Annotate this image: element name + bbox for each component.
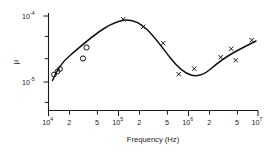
chart-figure: 10-4 10-5 104 2 5 105 2 5 106 2 5 107 Fr…: [0, 0, 269, 151]
data-point-cross: [192, 67, 196, 71]
data-point-cross: [250, 38, 254, 42]
x-tick-label-3: 105: [112, 116, 123, 126]
y-axis-title: μ: [10, 59, 20, 64]
data-point-circle: [80, 56, 85, 61]
data-curve: [53, 20, 257, 81]
data-point-cross: [161, 41, 165, 45]
x-tick-label-5: 5: [165, 118, 169, 127]
x-tick-label-9: 107: [252, 116, 263, 126]
y-axis-ticks: [44, 16, 49, 102]
x-tick-label-7: 2: [207, 118, 211, 127]
x-axis-title: Frequency (Hz): [127, 135, 180, 144]
y-tick-label-0: 10-4: [22, 10, 35, 20]
x-tick-label-2: 5: [95, 118, 99, 127]
data-point-cross: [177, 72, 181, 76]
y-tick-label-1: 10-5: [22, 76, 35, 86]
data-point-cross: [234, 58, 238, 62]
x-tick-label-8: 5: [235, 118, 239, 127]
cross-markers: [121, 17, 254, 76]
data-point-cross: [219, 55, 223, 59]
x-tick-label-6: 106: [182, 116, 193, 126]
x-tick-label-4: 2: [137, 118, 141, 127]
x-tick-label-0: 104: [42, 116, 53, 126]
data-point-circle: [84, 45, 89, 50]
data-point-cross: [229, 47, 233, 51]
x-axis-ticks: [49, 111, 259, 117]
x-tick-label-1: 2: [67, 118, 71, 127]
chart-svg: 10-4 10-5 104 2 5 105 2 5 106 2 5 107 Fr…: [0, 0, 269, 151]
